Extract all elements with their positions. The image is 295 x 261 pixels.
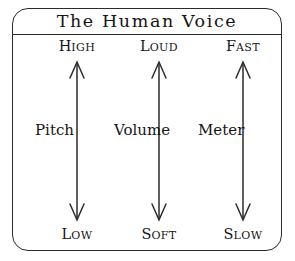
double-arrow-icon-volume <box>114 56 204 226</box>
axis-top-label-meter-initial: F <box>226 38 236 54</box>
axis-top-label-volume-initial: L <box>140 38 150 54</box>
axis-bottom-label-meter-rest: LOW <box>234 229 263 242</box>
axis-middle-label-meter: Meter <box>198 123 240 138</box>
axis-bottom-label-meter: SLOW <box>198 226 288 242</box>
axis-top-label-pitch-initial: H <box>59 38 72 54</box>
axis-column-pitch: HIGH Pitch LOW <box>32 36 122 251</box>
axis-bottom-label-volume-initial: S <box>141 226 151 242</box>
human-voice-diagram: The Human Voice HIGH Pitch LOW <box>0 0 295 261</box>
axis-bottom-label-pitch-initial: L <box>62 226 72 242</box>
axis-bottom-label-pitch-rest: OW <box>71 229 92 242</box>
axis-top-label-pitch: HIGH <box>32 38 122 54</box>
double-arrow-icon-meter <box>198 56 288 226</box>
axis-bottom-label-volume-rest: OFT <box>151 229 176 242</box>
axis-column-volume: LOUD Volume SOFT <box>114 36 204 251</box>
axis-top-label-volume: LOUD <box>114 38 204 54</box>
axis-top-label-meter: FAST <box>198 38 288 54</box>
axis-top-label-pitch-rest: IGH <box>71 41 95 54</box>
axis-column-meter: FAST Meter SLOW <box>198 36 288 251</box>
axis-top-label-volume-rest: OUD <box>150 41 178 54</box>
axis-bottom-label-volume: SOFT <box>114 226 204 242</box>
axis-top-label-meter-rest: AST <box>236 41 260 54</box>
double-arrow-icon-pitch <box>32 56 122 226</box>
axis-columns: HIGH Pitch LOW LOUD <box>12 36 282 251</box>
axis-bottom-label-meter-initial: S <box>224 226 234 242</box>
axis-middle-label-pitch: Pitch <box>32 123 74 138</box>
title-divider <box>13 34 281 35</box>
axis-middle-label-volume: Volume <box>114 123 156 138</box>
axis-bottom-label-pitch: LOW <box>32 226 122 242</box>
